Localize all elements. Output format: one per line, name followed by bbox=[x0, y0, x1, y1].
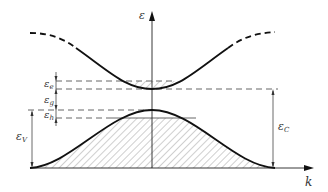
energy-axis-label: ε bbox=[139, 9, 145, 22]
band-diagram: ε k εe εg εh εV εC bbox=[0, 0, 328, 192]
conduction-band bbox=[30, 32, 275, 89]
band-diagram-svg: ε k εe εg εh εV εC bbox=[0, 0, 328, 192]
valence-hatch bbox=[30, 118, 280, 168]
k-axis-arrow-icon bbox=[304, 165, 314, 171]
label-epsilon-g: εg bbox=[44, 94, 54, 107]
epsilon-c-arrow-up-icon bbox=[272, 89, 275, 95]
label-epsilon-c: εC bbox=[278, 120, 290, 134]
label-epsilon-v: εV bbox=[16, 130, 28, 144]
energy-axis-arrow-icon bbox=[149, 11, 155, 21]
k-axis-label: k bbox=[305, 175, 312, 189]
label-epsilon-h: εh bbox=[44, 109, 54, 122]
label-epsilon-e: εe bbox=[44, 78, 54, 91]
epsilon-v-arrow-up-icon bbox=[31, 110, 34, 116]
